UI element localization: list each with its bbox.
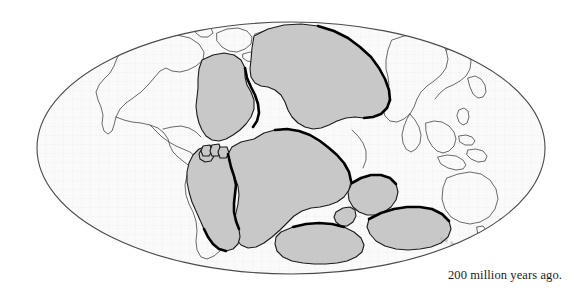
paleogeographic-map-figure: C.R. Scotese bbox=[0, 0, 574, 297]
figure-caption: 200 million years ago. bbox=[448, 268, 562, 283]
map-canvas: C.R. Scotese bbox=[0, 0, 574, 297]
